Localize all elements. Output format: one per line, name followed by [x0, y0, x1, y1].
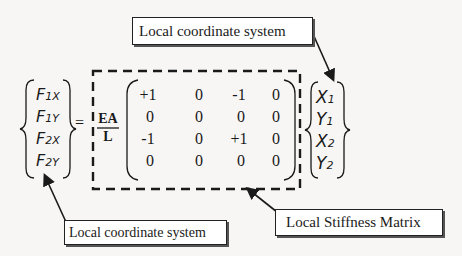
matrix-cell: 0 [184, 150, 214, 172]
coefficient-denominator: L [96, 129, 120, 145]
matrix-cell: 0 [261, 84, 291, 106]
matrix-cell: 0 [226, 150, 256, 172]
callout-bottom-left-local-coordinate-system: Local coordinate system [64, 220, 227, 245]
matrix-cell: 0 [226, 106, 256, 128]
matrix-cell: 0 [184, 128, 214, 150]
matrix-cell: 0 [261, 106, 291, 128]
bottom-left-callout-arrow [45, 176, 66, 222]
equals-sign: = [75, 114, 84, 132]
callout-top-local-coordinate-system: Local coordinate system [132, 17, 313, 45]
displacement-vector-entry: Y2 [316, 152, 333, 177]
matrix-cell: 0 [184, 106, 214, 128]
coefficient-numerator: EA [96, 111, 120, 127]
matrix-cell: +1 [224, 128, 254, 150]
matrix-cell: -1 [224, 84, 254, 106]
matrix-cell: +1 [133, 84, 163, 106]
matrix-cell: 0 [135, 106, 165, 128]
matrix-cell: 0 [261, 150, 291, 172]
force-vector-left-brace [20, 80, 34, 178]
callout-local-stiffness-matrix: Local Stiffness Matrix [275, 209, 443, 236]
top-callout-arrow [313, 34, 333, 79]
matrix-cell: 0 [261, 128, 291, 150]
matrix-cell: 0 [135, 150, 165, 172]
matrix-cell: 0 [184, 84, 214, 106]
force-vector-entry: F2Y [36, 150, 59, 174]
displacement-vector-right-brace [337, 82, 350, 178]
bottom-right-callout-arrow [248, 189, 277, 212]
force-vector-entry: F2X [36, 128, 60, 152]
force-vector-entry: F1Y [36, 106, 59, 130]
force-vector-entry: F1X [36, 84, 60, 108]
matrix-cell: -1 [133, 128, 163, 150]
